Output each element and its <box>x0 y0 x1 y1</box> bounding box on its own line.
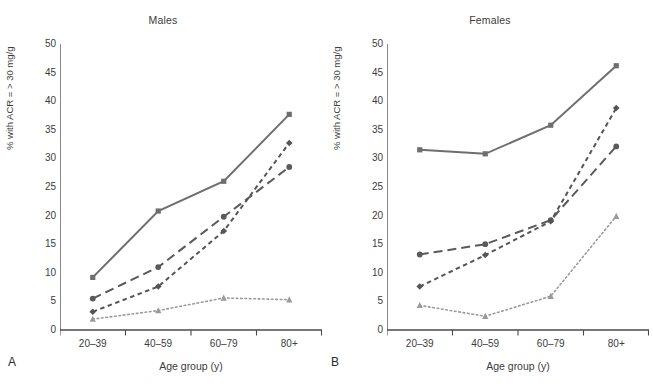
y-tick-label: 50 <box>359 38 383 49</box>
y-tick-label: 40 <box>359 95 383 106</box>
y-tick-label: 5 <box>359 295 383 306</box>
y-tick-label: 10 <box>359 267 383 278</box>
panel-letter: A <box>8 355 16 369</box>
x-tick-label: 60–79 <box>516 338 586 349</box>
y-tick-label: 30 <box>359 152 383 163</box>
y-tick-label: 50 <box>32 38 56 49</box>
y-tick-label: 15 <box>359 238 383 249</box>
y-tick-label: 20 <box>32 210 56 221</box>
y-tick-label: 30 <box>32 152 56 163</box>
y-axis-ticks: 05101520253035404550 <box>357 44 383 330</box>
y-tick-label: 5 <box>32 295 56 306</box>
y-tick-label: 25 <box>359 181 383 192</box>
y-axis-ticks: 05101520253035404550 <box>30 44 56 330</box>
x-tick-label: 40–59 <box>123 338 193 349</box>
y-tick-label: 0 <box>359 324 383 335</box>
chart-panel-males: Males % with ACR = > 30 mg/g 05101520253… <box>0 0 326 388</box>
series-circle <box>90 164 292 301</box>
x-tick-label: 20–39 <box>58 338 128 349</box>
x-axis-label: Age group (y) <box>60 360 322 372</box>
x-tick-label: 20–39 <box>385 338 455 349</box>
y-tick-label: 45 <box>359 67 383 78</box>
x-tick-label: 60–79 <box>189 338 259 349</box>
y-axis-label: % with ACR = > 30 mg/g <box>4 20 15 150</box>
y-tick-label: 35 <box>32 124 56 135</box>
plot-area-females <box>387 44 649 330</box>
panel-title: Females <box>327 14 653 26</box>
y-tick-label: 10 <box>32 267 56 278</box>
series-circle <box>417 143 619 257</box>
series-triangle <box>90 295 293 322</box>
chart-panel-females: Females % with ACR = > 30 mg/g 051015202… <box>327 0 653 388</box>
panel-letter: B <box>331 355 339 369</box>
y-tick-label: 25 <box>32 181 56 192</box>
x-tick-label: 80+ <box>254 338 324 349</box>
y-tick-label: 0 <box>32 324 56 335</box>
x-tick-label: 80+ <box>581 338 651 349</box>
x-tick-label: 40–59 <box>450 338 520 349</box>
y-tick-label: 20 <box>359 210 383 221</box>
series-square <box>417 63 619 156</box>
series-triangle <box>417 213 620 319</box>
x-axis-label: Age group (y) <box>387 360 649 372</box>
plot-area-males <box>60 44 322 330</box>
series-diamond <box>416 105 619 290</box>
series-square <box>90 112 292 280</box>
y-tick-label: 35 <box>359 124 383 135</box>
y-tick-label: 40 <box>32 95 56 106</box>
series-diamond <box>89 140 292 315</box>
y-tick-label: 45 <box>32 67 56 78</box>
figure-root: Males % with ACR = > 30 mg/g 05101520253… <box>0 0 653 388</box>
panel-title: Males <box>0 14 326 26</box>
y-tick-label: 15 <box>32 238 56 249</box>
y-axis-label: % with ACR = > 30 mg/g <box>331 20 342 150</box>
